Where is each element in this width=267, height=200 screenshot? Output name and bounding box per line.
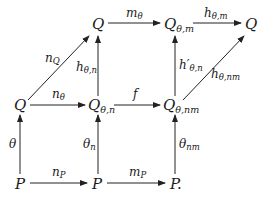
- label-theta: θ: [9, 137, 17, 151]
- label-m-p: mP: [129, 165, 146, 180]
- commutative-diagram: Q Qθ,m Q Q Qθ,n Qθ,nm P P P. mθ hθ,m nQ …: [0, 0, 267, 200]
- label-h-theta-nm: hθ,nm: [211, 67, 240, 82]
- node-q-theta-nm: Qθ,nm: [163, 96, 199, 115]
- label-m-theta: mθ: [126, 6, 143, 21]
- node-q-top: Q: [92, 15, 104, 33]
- label-theta-nm: θnm: [179, 137, 200, 152]
- label-h-theta-n: hθ,n: [76, 60, 97, 75]
- node-q-mid: Q: [14, 96, 26, 114]
- label-n-p: nP: [52, 165, 66, 180]
- node-p-right: P.: [169, 175, 182, 193]
- node-p-mid: P: [91, 175, 103, 193]
- label-n-theta: nθ: [52, 87, 65, 102]
- label-h-theta-m: hθ,m: [204, 6, 228, 21]
- label-f: f: [132, 87, 140, 101]
- node-p-left: P: [14, 175, 26, 193]
- node-q-theta-n: Qθ,n: [88, 96, 115, 115]
- label-h-prime-theta-n: h′θ,n: [179, 58, 203, 73]
- node-q-top-right: Q: [245, 15, 257, 33]
- label-n-q: nQ: [45, 51, 60, 66]
- node-q-theta-m: Qθ,m: [164, 15, 194, 34]
- label-theta-n: θn: [83, 137, 96, 152]
